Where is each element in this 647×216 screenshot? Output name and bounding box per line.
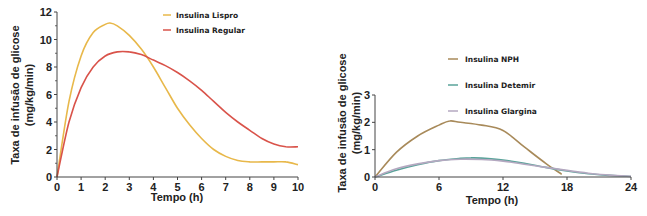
right-y-ticks: 0123 [364, 89, 375, 183]
x-tick-label: 2 [102, 181, 108, 193]
x-tick-label: 9 [271, 181, 277, 193]
x-tick-label: 7 [223, 181, 229, 193]
x-tick-label: 10 [292, 181, 304, 193]
y-tick-label: 6 [46, 89, 52, 101]
right-y-axis-label-line1: Taxa de infusão de glicose [336, 53, 348, 192]
left-y-axis-label-line2: (mg/kg/min) [23, 64, 35, 127]
x-tick-label: 0 [54, 181, 60, 193]
left-chart-rapid-insulins: 024681012 012345678910 Tempo (h) Taxa de… [9, 6, 304, 203]
y-tick-label: 4 [46, 116, 53, 128]
right-x-ticks: 06121824 [372, 177, 638, 193]
left-plot-area [57, 23, 298, 177]
x-tick-label: 24 [625, 181, 638, 193]
legend-label-detemir: Insulina Detemir [465, 81, 535, 90]
series-line-insulina-lispro [57, 23, 298, 177]
right-legend: Insulina NPH Insulina Detemir Insulina G… [448, 55, 537, 116]
y-tick-label: 2 [364, 116, 370, 128]
legend-label-glargina: Insulina Glargina [465, 107, 537, 116]
right-x-axis-label: Tempo (h) [466, 194, 519, 206]
x-tick-label: 1 [78, 181, 84, 193]
y-tick-label: 0 [46, 171, 52, 183]
left-y-axis-label-line1: Taxa de infusão de glicose [9, 25, 21, 164]
legend-label-nph: Insulina NPH [465, 55, 519, 64]
series-line-insulina-regular [57, 51, 298, 177]
left-legend: Insulina Lispro Insulina Regular [163, 11, 245, 35]
x-tick-label: 6 [436, 181, 442, 193]
legend-label-lispro: Insulina Lispro [176, 11, 238, 20]
y-tick-label: 3 [364, 89, 370, 101]
legend-label-regular: Insulina Regular [176, 26, 245, 35]
right-y-axis-label-line2: (mg/kg/min) [350, 92, 362, 155]
y-tick-label: 8 [46, 61, 52, 73]
x-tick-label: 18 [561, 181, 573, 193]
y-tick-label: 10 [40, 34, 52, 46]
y-tick-label: 12 [40, 6, 52, 18]
y-tick-label: 1 [364, 144, 370, 156]
chart-canvas: 024681012 012345678910 Tempo (h) Taxa de… [0, 0, 647, 216]
x-tick-label: 0 [372, 181, 378, 193]
y-tick-label: 2 [46, 144, 52, 156]
x-tick-label: 3 [126, 181, 132, 193]
y-tick-label: 0 [364, 171, 370, 183]
left-y-ticks: 024681012 [40, 6, 57, 183]
series-line-insulina-glargina [375, 159, 631, 177]
x-tick-label: 8 [247, 181, 253, 193]
right-plot-area [375, 121, 631, 177]
left-x-axis-label: Tempo (h) [151, 191, 204, 203]
x-tick-label: 12 [497, 181, 509, 193]
right-chart-basal-insulins: 0123 06121824 Tempo (h) Taxa de infusão … [336, 53, 638, 206]
